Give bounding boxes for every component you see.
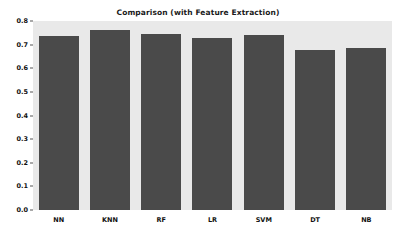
y-tick-label: 0.0 <box>16 206 28 214</box>
y-axis: 0.00.10.20.30.40.50.60.70.8 <box>0 21 33 210</box>
x-tick-label-svm: SVM <box>244 210 284 236</box>
x-tick-label-nn: NN <box>39 210 79 236</box>
bar-lr <box>192 38 232 210</box>
y-tick-label: 0.5 <box>16 88 28 96</box>
x-tick-label-nb: NB <box>346 210 386 236</box>
y-tick-label: 0.6 <box>16 64 28 72</box>
bar-knn <box>90 30 130 210</box>
y-tick-label: 0.2 <box>16 159 28 167</box>
chart-figure: Comparison (with Feature Extraction) 0.0… <box>0 0 396 240</box>
bar-dt <box>295 50 335 210</box>
bar-series <box>33 21 392 210</box>
y-tick-label: 0.3 <box>16 135 28 143</box>
x-tick-label-dt: DT <box>295 210 335 236</box>
x-tick-label-lr: LR <box>192 210 232 236</box>
plot-area <box>33 21 392 210</box>
y-tick-label: 0.4 <box>16 112 28 120</box>
bar-nb <box>346 48 386 210</box>
x-axis: NNKNNRFLRSVMDTNB <box>33 210 392 236</box>
y-tick-label: 0.8 <box>16 17 28 25</box>
bar-nn <box>39 36 79 210</box>
bar-svm <box>244 35 284 210</box>
x-tick-label-knn: KNN <box>90 210 130 236</box>
chart-title: Comparison (with Feature Extraction) <box>0 8 396 17</box>
y-tick-label: 0.1 <box>16 182 28 190</box>
bar-rf <box>141 34 181 210</box>
x-tick-label-rf: RF <box>141 210 181 236</box>
y-tick-label: 0.7 <box>16 41 28 49</box>
